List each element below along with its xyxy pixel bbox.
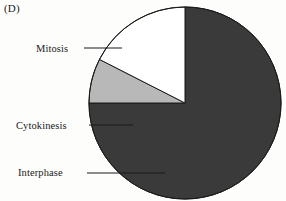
pie-label-interphase: Interphase: [18, 167, 63, 178]
pie-label-cytokinesis: Cytokinesis: [16, 120, 67, 131]
pie-label-mitosis: Mitosis: [36, 43, 68, 54]
pie-chart-figure: (D) Mitosis Cytokinesis Interphase: [0, 0, 286, 201]
